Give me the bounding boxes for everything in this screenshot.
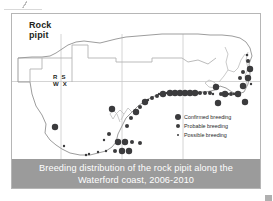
figure-caption: Breeding distribution of the rock pipit … (12, 159, 260, 188)
legend-label-confirmed: Confirmed breeding (184, 114, 231, 120)
confirmed-dot-icon (172, 114, 184, 120)
grid-label-bottom: W X (53, 81, 68, 88)
probable-dot-icon (172, 124, 184, 128)
page-corner-mark (265, 195, 272, 201)
confirmed-breeding-dots (52, 66, 253, 154)
legend-label-probable: Probable breeding (184, 123, 228, 129)
scan-line-divider (4, 9, 42, 10)
legend-item-possible: Possible breeding (172, 131, 231, 139)
legend-label-possible: Possible breeding (184, 132, 227, 138)
caption-line-2: Waterford coast, 2006-2010 (78, 174, 194, 186)
map-title: Rock pipit (29, 20, 51, 40)
caption-line-1: Breeding distribution of the rock pipit … (39, 162, 233, 174)
possible-breeding-dots (63, 54, 252, 157)
figure-page: Rock pipit R S W X Confirmed breeding Pr… (0, 0, 273, 201)
map-canvas: Rock pipit R S W X Confirmed breeding Pr… (12, 14, 260, 159)
grid-lines (12, 34, 260, 159)
map-title-line1: Rock (29, 20, 51, 30)
map-title-line2: pipit (29, 30, 51, 40)
internal-boundaries (18, 45, 216, 82)
map-legend: Confirmed breeding Probable breeding Pos… (172, 113, 231, 140)
legend-item-probable: Probable breeding (172, 122, 231, 130)
grid-reference-labels: R S W X (53, 74, 68, 87)
distribution-map-figure: Rock pipit R S W X Confirmed breeding Pr… (11, 13, 261, 189)
scan-artifact-icon (22, 1, 28, 8)
legend-item-confirmed: Confirmed breeding (172, 113, 231, 121)
possible-dot-icon (172, 134, 184, 136)
grid-label-top: R S (53, 74, 68, 81)
